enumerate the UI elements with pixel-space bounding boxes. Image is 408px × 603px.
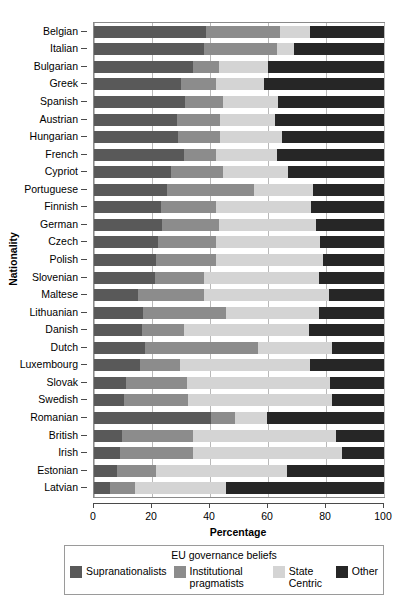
bar-segment[interactable] [94, 307, 143, 319]
bar-segment[interactable] [155, 272, 204, 284]
bar-segment[interactable] [120, 447, 193, 459]
bar-row[interactable] [94, 254, 384, 266]
bar-segment[interactable] [94, 412, 211, 424]
bar-segment[interactable] [94, 131, 178, 143]
bar-row[interactable] [94, 465, 384, 477]
bar-segment[interactable] [94, 219, 162, 231]
bar-segment[interactable] [332, 394, 384, 406]
bar-row[interactable] [94, 324, 384, 336]
legend-item[interactable]: Supranationalists [70, 565, 167, 578]
bar-row[interactable] [94, 166, 384, 178]
bar-segment[interactable] [254, 184, 313, 196]
bar-segment[interactable] [94, 114, 177, 126]
bar-segment[interactable] [206, 26, 280, 38]
legend-item[interactable]: Institutional pragmatists [174, 565, 266, 589]
bar-segment[interactable] [177, 114, 221, 126]
bar-segment[interactable] [287, 465, 384, 477]
bar-segment[interactable] [94, 430, 122, 442]
bar-segment[interactable] [220, 114, 275, 126]
bar-row[interactable] [94, 149, 384, 161]
bar-segment[interactable] [204, 43, 277, 55]
legend-item[interactable]: State Centric [273, 565, 329, 589]
bar-segment[interactable] [288, 166, 384, 178]
bar-segment[interactable] [156, 254, 215, 266]
bar-row[interactable] [94, 201, 384, 213]
bar-segment[interactable] [313, 184, 384, 196]
bar-row[interactable] [94, 430, 384, 442]
bar-segment[interactable] [94, 96, 185, 108]
bar-segment[interactable] [309, 324, 384, 336]
bar-row[interactable] [94, 26, 384, 38]
bar-row[interactable] [94, 272, 384, 284]
bar-segment[interactable] [310, 26, 384, 38]
legend-item[interactable]: Other [336, 565, 378, 578]
bar-row[interactable] [94, 447, 384, 459]
bar-segment[interactable] [156, 465, 287, 477]
bar-segment[interactable] [94, 289, 138, 301]
bar-row[interactable] [94, 342, 384, 354]
bar-row[interactable] [94, 377, 384, 389]
bar-segment[interactable] [310, 359, 384, 371]
bar-segment[interactable] [145, 342, 258, 354]
bar-segment[interactable] [94, 342, 145, 354]
bar-segment[interactable] [282, 131, 384, 143]
bar-segment[interactable] [94, 166, 171, 178]
bar-segment[interactable] [126, 377, 187, 389]
bar-segment[interactable] [184, 324, 309, 336]
bar-segment[interactable] [117, 465, 156, 477]
bar-segment[interactable] [181, 78, 216, 90]
bar-row[interactable] [94, 394, 384, 406]
bar-segment[interactable] [161, 201, 216, 213]
bar-segment[interactable] [180, 359, 311, 371]
bar-row[interactable] [94, 61, 384, 73]
bar-segment[interactable] [94, 465, 117, 477]
bar-segment[interactable] [319, 307, 384, 319]
bar-segment[interactable] [220, 131, 282, 143]
bar-row[interactable] [94, 236, 384, 248]
bar-segment[interactable] [336, 430, 384, 442]
bar-segment[interactable] [124, 394, 188, 406]
bar-segment[interactable] [184, 149, 216, 161]
bar-segment[interactable] [235, 412, 267, 424]
bar-segment[interactable] [94, 184, 167, 196]
bar-segment[interactable] [342, 447, 384, 459]
bar-segment[interactable] [216, 78, 264, 90]
bar-segment[interactable] [140, 359, 179, 371]
bar-row[interactable] [94, 359, 384, 371]
bar-segment[interactable] [275, 114, 384, 126]
bar-segment[interactable] [223, 96, 278, 108]
bar-segment[interactable] [138, 289, 205, 301]
bar-row[interactable] [94, 307, 384, 319]
bar-row[interactable] [94, 184, 384, 196]
bar-row[interactable] [94, 114, 384, 126]
bar-segment[interactable] [94, 201, 161, 213]
bar-segment[interactable] [94, 43, 204, 55]
bar-segment[interactable] [188, 394, 332, 406]
bar-segment[interactable] [178, 131, 220, 143]
bar-segment[interactable] [193, 61, 219, 73]
bar-segment[interactable] [332, 342, 384, 354]
bar-segment[interactable] [226, 482, 384, 494]
bar-segment[interactable] [94, 324, 142, 336]
bar-segment[interactable] [94, 149, 184, 161]
bar-segment[interactable] [216, 236, 320, 248]
bar-segment[interactable] [162, 219, 219, 231]
bar-row[interactable] [94, 78, 384, 90]
bar-segment[interactable] [122, 430, 193, 442]
bar-segment[interactable] [330, 377, 384, 389]
bar-segment[interactable] [211, 412, 234, 424]
bar-segment[interactable] [216, 254, 323, 266]
bar-segment[interactable] [142, 324, 184, 336]
bar-segment[interactable] [193, 447, 342, 459]
bar-segment[interactable] [267, 412, 384, 424]
bar-segment[interactable] [219, 219, 316, 231]
bar-segment[interactable] [311, 201, 384, 213]
bar-segment[interactable] [94, 272, 155, 284]
bar-row[interactable] [94, 131, 384, 143]
bar-segment[interactable] [94, 447, 120, 459]
bar-segment[interactable] [94, 254, 156, 266]
bar-segment[interactable] [277, 149, 384, 161]
bar-segment[interactable] [277, 43, 294, 55]
bar-segment[interactable] [219, 61, 268, 73]
bar-segment[interactable] [319, 272, 384, 284]
